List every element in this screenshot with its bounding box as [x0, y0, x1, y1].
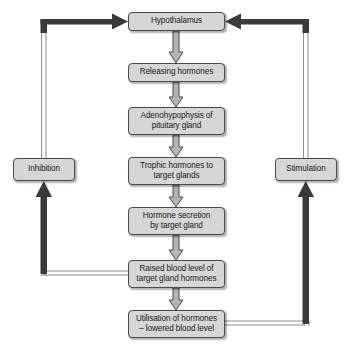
node-utilisation-of-hormones[interactable]: Utilisation of hormones – lowered blood …: [128, 310, 225, 338]
arrow-adenohypophysis-to-trophic: [169, 135, 183, 157]
node-releasing-hormones[interactable]: Releasing hormones: [128, 63, 225, 82]
node-trophic-hormones[interactable]: Trophic hormones to target glands: [128, 157, 225, 185]
node-stimulation[interactable]: Stimulation: [275, 158, 337, 181]
node-adenohypophysis[interactable]: Adenohypophysis of pituitary gland: [128, 107, 225, 135]
arrow-raised-to-inhibition: [36, 181, 53, 274]
node-hormone-secretion-label: Hormone secretion by target gland: [143, 211, 210, 232]
node-utilisation-of-hormones-label: Utilisation of hormones – lowered blood …: [136, 314, 217, 335]
node-adenohypophysis-label: Adenohypophysis of pituitary gland: [141, 111, 213, 132]
endocrine-feedback-diagram: Hypothalamus Releasing hormones Adenohyp…: [0, 0, 345, 350]
inhibition-feedback-branch-line: [41, 271, 128, 276]
stimulation-feedback-branch-line: [225, 321, 309, 326]
node-hormone-secretion[interactable]: Hormone secretion by target gland: [128, 207, 225, 235]
node-raised-blood-level[interactable]: Raised blood level of target gland hormo…: [128, 260, 225, 288]
node-inhibition-label: Inhibition: [28, 164, 60, 175]
arrow-releasing-to-adenohypophysis: [169, 82, 183, 107]
arrow-raised-to-utilisation: [169, 288, 183, 310]
node-trophic-hormones-label: Trophic hormones to target glands: [140, 161, 213, 182]
arrow-hypothalamus-to-releasing: [169, 31, 183, 63]
node-raised-blood-level-label: Raised blood level of target gland hormo…: [137, 264, 217, 285]
node-hypothalamus[interactable]: Hypothalamus: [128, 12, 225, 31]
node-stimulation-label: Stimulation: [286, 164, 325, 175]
arrow-inhibition-to-hypothalamus: [41, 14, 129, 34]
node-inhibition[interactable]: Inhibition: [13, 158, 75, 181]
arrow-trophic-to-secretion: [169, 185, 183, 207]
node-releasing-hormones-label: Releasing hormones: [140, 67, 213, 78]
node-hypothalamus-label: Hypothalamus: [151, 16, 202, 27]
arrow-stimulation-to-hypothalamus: [225, 14, 309, 34]
arrow-secretion-to-raised: [169, 235, 183, 260]
stimulation-to-hypothalamus-riser-line: [304, 30, 309, 158]
arrow-utilisation-to-stimulation: [298, 181, 315, 324]
inhibition-to-hypothalamus-riser-line: [42, 30, 47, 158]
